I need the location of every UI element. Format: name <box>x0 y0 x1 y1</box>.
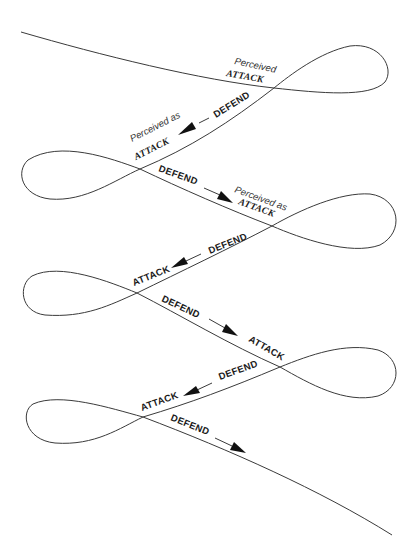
label-defend-2: DEFEND <box>157 163 199 187</box>
arrow-down-left-icon <box>171 257 188 268</box>
label-defend-6: DEFEND <box>169 412 211 438</box>
arrow-line-1 <box>199 118 209 123</box>
spiral-curve <box>21 32 396 535</box>
escalation-spiral-diagram: Perceived ATTACK DEFEND Perceived as ATT… <box>0 0 419 557</box>
arrow-line-3 <box>186 254 201 261</box>
arrow-down-left-icon <box>183 386 200 396</box>
label-perceived-2: Perceived as <box>128 109 182 144</box>
label-defend-1: DEFEND <box>211 89 251 120</box>
arrow-down-right-icon <box>222 324 238 336</box>
arrow-line-5 <box>197 383 212 390</box>
arrow-line-2 <box>204 188 220 195</box>
arrow-down-left-icon <box>178 122 196 135</box>
label-attack-6: ATTACK <box>139 389 180 413</box>
arrow-down-right-icon <box>230 442 246 453</box>
label-defend-3: DEFEND <box>207 230 249 256</box>
arrow-line-4 <box>209 319 225 328</box>
arrow-line-6 <box>215 438 232 446</box>
arrow-down-right-icon <box>217 191 233 203</box>
label-attack-4: ATTACK <box>131 263 172 288</box>
